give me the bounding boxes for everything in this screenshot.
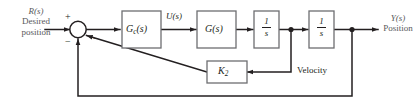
input-line2: position	[21, 27, 50, 37]
junction-dot-position	[349, 27, 354, 32]
block-label-velocity-gain: K2	[218, 66, 228, 78]
input-symbol: R(s)	[29, 6, 44, 16]
block-label-plant: G(s)	[205, 24, 223, 34]
junction-dot-velocity	[288, 27, 293, 32]
output-label: Y(s) Position	[378, 13, 418, 34]
output-line1: Position	[383, 23, 413, 33]
integrator-1-denominator: s	[259, 29, 274, 38]
integrator-2-numerator: 1	[314, 17, 329, 26]
summing-junction	[70, 21, 86, 37]
block-label-integrator-1: 1 s	[259, 17, 274, 38]
input-line1: Desired	[22, 16, 50, 26]
signal-label-velocity: Velocity	[297, 66, 327, 75]
sum-sign-minus-outer: −	[65, 37, 71, 47]
integrator-1-numerator: 1	[259, 17, 274, 26]
block-label-integrator-2: 1 s	[314, 17, 329, 38]
sum-sign-plus: +	[65, 12, 71, 22]
signal-label-control: U(s)	[166, 12, 182, 21]
output-symbol: Y(s)	[391, 13, 406, 23]
block-diagram-figure: R(s) Desired position Y(s) Position + − …	[0, 0, 418, 105]
integrator-2-denominator: s	[314, 29, 329, 38]
sum-sign-minus-inner: −	[93, 34, 99, 44]
block-label-controller: Gc(s)	[126, 24, 147, 36]
input-label: R(s) Desired position	[8, 6, 64, 37]
